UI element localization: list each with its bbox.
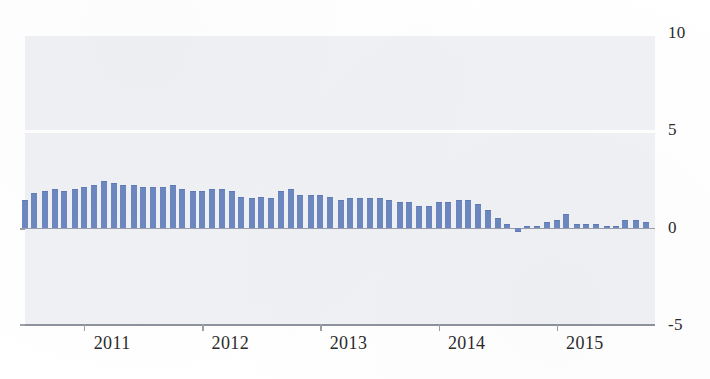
bar: [406, 202, 412, 227]
bar: [317, 195, 323, 228]
bar: [643, 222, 649, 228]
zero-baseline: [25, 228, 655, 230]
bar: [308, 195, 314, 228]
bar: [120, 185, 126, 228]
y-axis-stub-minus5: [20, 324, 25, 326]
bar: [170, 185, 176, 228]
bar: [386, 200, 392, 227]
bar: [91, 185, 97, 228]
bar: [297, 195, 303, 228]
x-tick-label-2015: 2015: [566, 333, 604, 354]
bar: [524, 226, 530, 228]
gridline-5: [25, 130, 655, 133]
bar: [278, 191, 284, 228]
bar: [416, 206, 422, 227]
x-tick-2013: [320, 324, 321, 331]
bar: [31, 193, 37, 228]
y-tick-label-0: 0: [668, 218, 677, 238]
x-tick-2015: [557, 324, 558, 331]
bar: [504, 224, 510, 228]
bar: [42, 191, 48, 228]
bar: [445, 202, 451, 227]
x-tick-2011: [84, 324, 85, 331]
gridline-10: [25, 33, 655, 36]
bar: [238, 197, 244, 228]
bar: [219, 189, 225, 228]
bar: [52, 189, 58, 228]
x-tick-label-2012: 2012: [211, 333, 249, 354]
bar: [72, 189, 78, 228]
y-tick-label-10: 10: [668, 23, 686, 43]
bar: [111, 183, 117, 228]
bar: [357, 198, 363, 227]
bar: [456, 200, 462, 227]
bar: [534, 226, 540, 228]
bar: [544, 222, 550, 228]
bar: [229, 191, 235, 228]
bar: [633, 220, 639, 228]
bar: [160, 187, 166, 228]
bar: [485, 210, 491, 228]
bar: [426, 206, 432, 227]
chart-container: 20112012201320142015 1050-5: [0, 0, 710, 379]
bar: [367, 198, 373, 227]
y-tick-label--5: -5: [668, 315, 683, 335]
bar: [268, 198, 274, 227]
bar: [150, 187, 156, 228]
bar: [209, 189, 215, 228]
bar: [583, 224, 589, 228]
x-tick-label-2013: 2013: [330, 333, 368, 354]
bar: [140, 187, 146, 228]
plot-area: [25, 33, 655, 325]
bar: [327, 197, 333, 228]
y-axis-stub-zero: [20, 228, 25, 230]
bar: [131, 185, 137, 228]
bar: [436, 202, 442, 227]
bar: [515, 228, 521, 232]
bar: [347, 198, 353, 227]
y-tick-label-5: 5: [668, 120, 677, 140]
bar: [22, 200, 28, 227]
bar: [61, 191, 67, 228]
bar: [377, 198, 383, 227]
x-tick-2014: [439, 324, 440, 331]
bar: [574, 224, 580, 228]
bar: [179, 189, 185, 228]
x-axis-line: [25, 324, 655, 326]
bar: [622, 220, 628, 228]
bar: [258, 197, 264, 228]
bar: [604, 226, 610, 228]
bar: [249, 198, 255, 227]
bar: [81, 187, 87, 228]
bar: [101, 181, 107, 228]
bar: [613, 226, 619, 227]
x-tick-label-2011: 2011: [94, 333, 131, 354]
bar: [593, 224, 599, 228]
bar: [338, 200, 344, 227]
bar: [465, 200, 471, 227]
x-tick-2012: [202, 324, 203, 331]
bar: [199, 191, 205, 228]
bar: [475, 204, 481, 227]
bar: [495, 218, 501, 228]
bar: [397, 202, 403, 227]
bar: [190, 191, 196, 228]
bar: [554, 220, 560, 228]
x-tick-label-2014: 2014: [448, 333, 486, 354]
bar: [288, 189, 294, 228]
bar: [563, 214, 569, 228]
